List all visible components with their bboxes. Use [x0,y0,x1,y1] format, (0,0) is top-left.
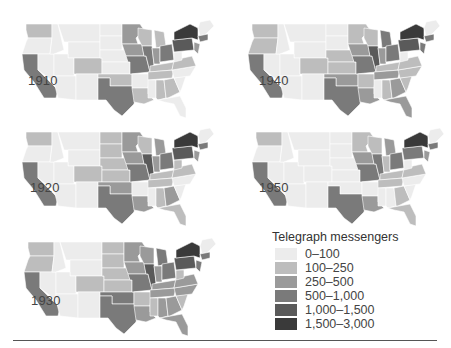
map-1930 [16,238,216,338]
state-ne [326,50,354,62]
legend-row: 1,000–1,500 [272,303,442,317]
state-fl [158,96,186,118]
state-wy [68,42,100,58]
state-wy [294,42,326,58]
state-ks [104,280,132,292]
state-wa [26,132,52,146]
state-or [22,38,52,54]
state-ks [102,170,130,182]
legend-swatch [275,304,297,316]
legend-label: 1,000–1,500 [305,303,375,317]
state-ne [102,268,130,280]
legend-label: 250–500 [305,275,354,289]
legend-label: 0–100 [305,247,340,261]
state-new-england [424,20,440,36]
state-co [74,166,102,182]
state-ks [102,62,130,74]
state-sd [330,144,352,158]
state-oh [160,152,174,170]
state-wa [26,24,52,38]
state-or [252,146,282,162]
state-or [248,38,278,54]
state-wv [176,270,184,280]
state-wy [298,150,330,166]
state-nm [76,74,98,100]
year-label-1950: 1950 [259,180,289,195]
bottom-rule [13,340,437,341]
legend-row: 100–250 [272,261,442,275]
map-1920 [14,128,214,228]
state-sd [100,144,122,158]
state-mt [60,242,102,260]
legend-swatch [275,276,297,288]
state-mt [284,24,326,42]
state-fl [158,204,186,226]
state-ar [132,182,150,196]
state-ar [358,74,376,88]
state-ar [134,292,152,306]
state-nd [330,132,352,144]
state-ks [332,170,360,182]
state-wi [368,136,382,154]
state-mt [288,132,330,150]
state-ia [122,152,144,164]
state-ny [404,132,428,148]
year-label-1930: 1930 [31,293,61,308]
state-nm [78,292,100,318]
state-or [22,146,52,162]
state-ne [100,158,128,170]
state-new-england [198,20,214,36]
legend-label: 100–250 [305,261,354,275]
state-ne [330,158,358,170]
legend-row: 0–100 [272,247,442,261]
state-nd [100,132,122,144]
state-oh [390,152,404,170]
state-ms [374,80,382,98]
state-new-england [200,238,216,254]
state-ia [352,152,374,164]
legend-swatch [275,262,297,274]
us-map-1930 [16,238,216,338]
state-sd [102,254,124,268]
state-ny [174,132,198,148]
map-1940 [240,20,440,120]
state-wv [174,160,182,170]
state-wi [140,246,154,264]
state-wv [404,160,412,170]
legend-swatch [275,290,297,302]
state-mt [58,132,100,150]
legend-label: 500–1,000 [305,289,364,303]
state-nd [102,242,124,254]
state-nj [196,260,202,272]
legend-title: Telegraph messengers [272,230,442,244]
state-ar [132,74,150,88]
state-nj [194,42,200,54]
state-fl [388,204,416,226]
state-ar [362,182,380,196]
map-1950 [244,128,444,228]
map-1910 [14,20,214,120]
state-co [74,58,102,74]
state-wy [70,260,102,276]
state-ms [148,188,156,206]
legend-row: 250–500 [272,275,442,289]
state-new-england [198,128,214,144]
us-map-1910 [14,20,214,120]
state-ia [348,44,370,56]
state-sd [100,36,122,50]
state-fl [160,314,188,336]
legend-swatch [275,248,297,260]
state-oh [386,44,400,62]
state-nm [306,182,328,208]
state-nd [326,24,348,36]
state-nm [76,182,98,208]
us-map-1950 [244,128,444,228]
legend-row: 500–1,000 [272,289,442,303]
state-wi [138,28,152,46]
legend-label: 1,500–3,000 [305,317,375,331]
state-ia [124,262,146,274]
state-ms [150,298,158,316]
state-or [24,256,54,272]
state-nj [424,150,430,162]
state-wi [364,28,378,46]
